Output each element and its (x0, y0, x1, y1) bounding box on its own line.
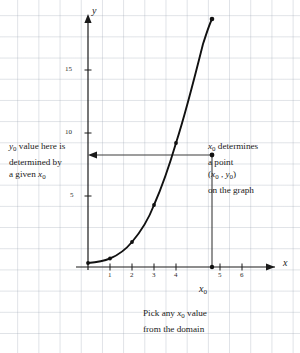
x-tick-label-5: 5 (218, 271, 222, 279)
exponential-curve (88, 19, 212, 263)
y-axis-arrow (84, 14, 91, 23)
annotation-right-line2: a point (208, 156, 258, 169)
guide-lines (88, 152, 212, 267)
x0-axis-marker (210, 265, 214, 269)
figure-container: 15 10 5 1 2 3 4 5 6 y x x0 y0 value here… (0, 0, 300, 353)
annotation-bottom-line1: Pick any x0 value (143, 307, 207, 323)
annotation-right-line4: on the graph (208, 184, 258, 197)
y-tick-label-5: 5 (70, 191, 74, 199)
annotation-left-line3: a given x0 (9, 168, 65, 184)
y-axis-label: y (92, 5, 96, 16)
horizontal-guide-arrow (88, 152, 97, 159)
annotation-right: x0 determines a point (x0 , y0) on the g… (208, 140, 258, 196)
annotation-left-line1: y0 value here is (9, 140, 65, 156)
y-tick-label-10: 10 (65, 128, 72, 136)
y-tick-label-15: 15 (65, 65, 72, 73)
annotation-right-line1: x0 determines (208, 140, 258, 156)
y-axis (84, 14, 91, 270)
x-tick-label-3: 3 (152, 271, 156, 279)
annotation-bottom: Pick any x0 value from the domain (143, 307, 207, 335)
x0-axis-label: x0 (199, 283, 207, 296)
x-axis-arrow (266, 263, 275, 270)
annotation-right-line3: (x0 , y0) (208, 168, 258, 184)
x-tick-label-6: 6 (240, 271, 244, 279)
curve-data-points (86, 17, 214, 265)
x-tick-label-2: 2 (130, 271, 134, 279)
annotation-bottom-line2: from the domain (143, 323, 207, 336)
annotation-left-line2: determined by (9, 156, 65, 169)
x-tick-label-4: 4 (174, 271, 178, 279)
x-tick-label-1: 1 (108, 271, 112, 279)
x-axis-label: x (283, 257, 287, 268)
annotation-left: y0 value here is determined by a given x… (9, 140, 65, 184)
